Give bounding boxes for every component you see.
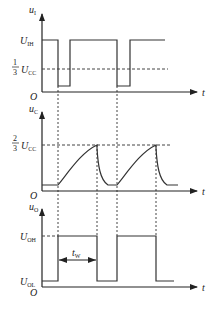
input-waveform (42, 40, 165, 86)
timing-diagram: uI t O UIH 1 3 UCC uC t O 2 3 UCC tW (0, 0, 221, 310)
panel-output: tW uO t O UOH UOL (20, 201, 205, 298)
y-label-capacitor: uC (29, 103, 38, 115)
x-label-capacitor: t (202, 186, 205, 197)
origin-input: O (30, 91, 37, 102)
label-two-thirds-vcc: 2 3 UCC (12, 134, 36, 153)
label-uih: UIH (20, 35, 34, 47)
label-uol: UOL (20, 276, 36, 288)
x-label-input: t (202, 87, 205, 98)
guide-lines (58, 86, 156, 236)
svg-text:3: 3 (13, 68, 17, 77)
origin-output: O (30, 287, 37, 298)
svg-text:2: 2 (13, 134, 17, 143)
y-label-output: uO (29, 201, 39, 213)
svg-text:UCC: UCC (21, 64, 36, 76)
origin-capacitor: O (30, 190, 37, 201)
panel-capacitor: uC t O 2 3 UCC (12, 103, 205, 201)
panel-input: uI t O UIH 1 3 UCC (12, 4, 205, 102)
capacitor-waveform (42, 145, 178, 185)
x-label-output: t (202, 282, 205, 293)
label-uoh: UOH (20, 231, 37, 243)
svg-text:UCC: UCC (21, 140, 36, 152)
output-waveform (42, 236, 174, 281)
label-tw: tW (72, 247, 81, 259)
label-one-third-vcc: 1 3 UCC (12, 58, 36, 77)
svg-text:3: 3 (13, 144, 17, 153)
svg-text:1: 1 (13, 58, 17, 67)
y-label-input: uI (29, 4, 36, 16)
